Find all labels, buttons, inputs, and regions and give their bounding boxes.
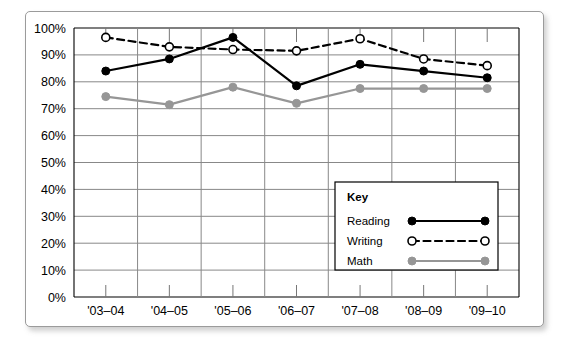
chart-figure: 100%90%80%70%60%50%40%30%20%10%0%'03–04'…: [0, 0, 573, 346]
data-point-marker: [293, 99, 301, 107]
legend-swatch-marker: [408, 257, 416, 265]
data-point-marker: [483, 85, 491, 93]
data-point-marker: [229, 33, 237, 41]
legend-entry-label: Math: [347, 255, 373, 267]
y-axis-tick-label: 0%: [48, 291, 66, 305]
data-point-marker: [229, 83, 237, 91]
x-axis-tick-label: '07–08: [341, 304, 378, 318]
chart-plot-wrapper: 100%90%80%70%60%50%40%30%20%10%0%'03–04'…: [0, 0, 573, 346]
y-axis-tick-labels: 100%90%80%70%60%50%40%30%20%10%0%: [34, 22, 66, 305]
x-axis-tick-labels: '03–04'04–05'05–06'06–07'07–08'08–09'09–…: [87, 304, 506, 318]
legend-swatch-marker: [481, 237, 489, 245]
legend-entry-label: Writing: [347, 235, 383, 247]
data-point-marker: [102, 33, 110, 41]
y-axis-tick-label: 20%: [41, 237, 66, 251]
data-point-marker: [483, 74, 491, 82]
y-axis-tick-label: 10%: [41, 264, 66, 278]
y-axis-tick-label: 100%: [34, 22, 66, 36]
y-axis-tick-label: 80%: [41, 75, 66, 89]
x-axis-tick-label: '05–06: [214, 304, 251, 318]
y-axis-tick-label: 50%: [41, 156, 66, 170]
legend-title: Key: [347, 191, 369, 203]
data-point-marker: [165, 55, 173, 63]
line-chart: 100%90%80%70%60%50%40%30%20%10%0%'03–04'…: [0, 0, 573, 346]
y-axis-tick-label: 70%: [41, 102, 66, 116]
x-axis-tick-label: '09–10: [469, 304, 506, 318]
data-point-marker: [356, 35, 364, 43]
y-axis-tick-label: 60%: [41, 129, 66, 143]
legend-swatch-marker: [408, 217, 416, 225]
x-axis-tick-label: '03–04: [87, 304, 124, 318]
y-axis-tick-label: 90%: [41, 48, 66, 62]
legend-swatch-marker: [481, 257, 489, 265]
data-point-marker: [356, 60, 364, 68]
data-point-marker: [483, 62, 491, 70]
data-point-marker: [420, 67, 428, 75]
data-point-marker: [420, 55, 428, 63]
x-axis-tick-label: '08–09: [405, 304, 442, 318]
data-point-marker: [165, 101, 173, 109]
y-axis-tick-label: 30%: [41, 210, 66, 224]
data-point-marker: [293, 82, 301, 90]
legend-swatch-marker: [408, 237, 416, 245]
legend-swatch-marker: [481, 217, 489, 225]
data-point-marker: [420, 85, 428, 93]
data-point-marker: [293, 47, 301, 55]
data-point-marker: [165, 43, 173, 51]
y-axis-tick-label: 40%: [41, 183, 66, 197]
chart-legend: KeyReadingWritingMath: [335, 182, 498, 270]
data-point-marker: [356, 85, 364, 93]
series-line: [106, 37, 487, 85]
data-point-marker: [102, 93, 110, 101]
legend-entry-label: Reading: [347, 215, 390, 227]
x-axis-tick-label: '04–05: [151, 304, 188, 318]
data-point-marker: [102, 67, 110, 75]
x-axis-tick-label: '06–07: [278, 304, 315, 318]
data-point-marker: [229, 46, 237, 54]
